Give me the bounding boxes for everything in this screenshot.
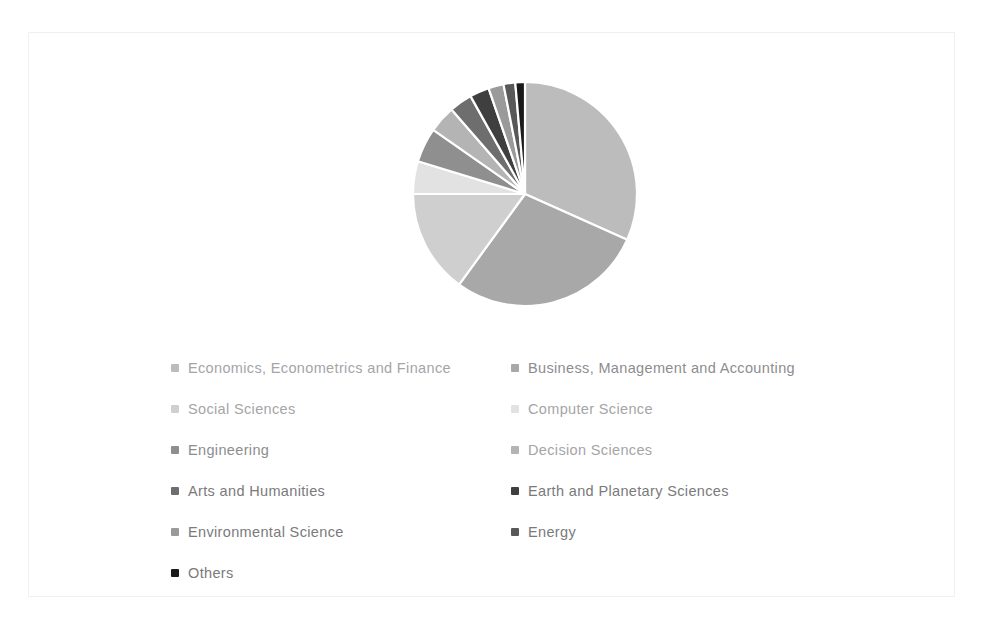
legend-item-label: Business, Management and Accounting — [528, 360, 795, 376]
legend-swatch-icon — [171, 364, 179, 372]
legend-item: Social Sciences — [171, 388, 531, 429]
legend-item-label: Arts and Humanities — [188, 483, 325, 499]
legend-column-left: Economics, Econometrics and FinanceSocia… — [171, 347, 531, 593]
pie-chart-svg — [412, 69, 638, 319]
legend-swatch-icon — [511, 487, 519, 495]
legend-swatch-icon — [171, 569, 179, 577]
legend-item-label: Social Sciences — [188, 401, 296, 417]
pie-chart — [412, 69, 638, 319]
legend-item-label: Environmental Science — [188, 524, 344, 540]
legend-swatch-icon — [171, 405, 179, 413]
legend-swatch-icon — [171, 487, 179, 495]
legend-swatch-icon — [511, 446, 519, 454]
legend-item-label: Computer Science — [528, 401, 653, 417]
legend-item: Arts and Humanities — [171, 470, 531, 511]
legend-item-label: Others — [188, 565, 234, 581]
legend-item: Earth and Planetary Sciences — [511, 470, 891, 511]
chart-figure-frame: Economics, Econometrics and FinanceSocia… — [28, 32, 955, 597]
legend-swatch-icon — [511, 364, 519, 372]
legend-item: Decision Sciences — [511, 429, 891, 470]
legend-item: Business, Management and Accounting — [511, 347, 891, 388]
legend-item: Economics, Econometrics and Finance — [171, 347, 531, 388]
legend-item-label: Economics, Econometrics and Finance — [188, 360, 451, 376]
legend-item-label: Earth and Planetary Sciences — [528, 483, 729, 499]
legend-item: Computer Science — [511, 388, 891, 429]
pie-slice-group — [413, 82, 637, 306]
legend-swatch-icon — [171, 446, 179, 454]
legend-item-label: Decision Sciences — [528, 442, 652, 458]
legend-item: Environmental Science — [171, 511, 531, 552]
legend-swatch-icon — [511, 405, 519, 413]
legend-column-right: Business, Management and AccountingCompu… — [511, 347, 891, 552]
legend-item: Energy — [511, 511, 891, 552]
legend-swatch-icon — [171, 528, 179, 536]
legend-item-label: Engineering — [188, 442, 269, 458]
legend-item-label: Energy — [528, 524, 576, 540]
legend-item: Engineering — [171, 429, 531, 470]
legend-swatch-icon — [511, 528, 519, 536]
legend-item: Others — [171, 552, 531, 593]
